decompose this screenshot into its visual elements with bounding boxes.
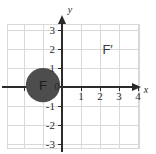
x-tick-label: 3 (116, 90, 122, 102)
y-tick-label: -3 (46, 138, 56, 150)
figure-F-label: F (39, 78, 47, 93)
plot-svg: FF′ 01234321-1-2-3 x y (0, 0, 156, 154)
figure-F-prime-label: F′ (102, 42, 113, 57)
coordinate-plane-figure: FF′ 01234321-1-2-3 x y (0, 0, 156, 154)
x-tick-label: 0 (54, 80, 60, 92)
plot-background (0, 0, 156, 154)
x-axis-label: x (143, 84, 149, 95)
y-tick-label: -1 (46, 100, 55, 112)
y-tick-label: 1 (50, 62, 56, 74)
y-axis-label: y (67, 4, 73, 15)
x-tick-label: 4 (135, 90, 141, 102)
y-tick-label: 3 (50, 24, 56, 36)
x-tick-label: 1 (78, 90, 84, 102)
y-tick-label: -2 (46, 119, 55, 131)
y-tick-label: 2 (50, 43, 56, 55)
x-tick-label: 2 (97, 90, 103, 102)
